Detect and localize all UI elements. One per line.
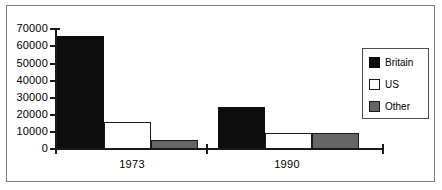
y-axis-label-text: 50000: [6, 58, 48, 69]
y-axis-label-40000: 40000: [7, 75, 48, 86]
x-axis-tick: [206, 144, 208, 154]
y-axis-label-70000: 70000: [7, 23, 48, 34]
white-square-swatch-icon: [369, 79, 380, 90]
y-axis-label-60000: 60000: [7, 40, 48, 51]
gray-square-swatch-icon: [369, 101, 380, 112]
legend: Britain US Other: [362, 48, 429, 119]
x-axis-tick: [382, 144, 384, 154]
y-axis-tick: [50, 28, 60, 30]
x-axis-line: [55, 148, 384, 150]
x-axis-label-1990: 1990: [232, 158, 342, 170]
legend-item-us: US: [369, 78, 399, 90]
y-axis-label-text: 70000: [6, 23, 48, 34]
legend-item-other: Other: [369, 100, 410, 112]
y-axis-label-10000: 10000: [7, 126, 48, 137]
x-axis-label-1973: 1973: [77, 158, 187, 170]
legend-label-us: US: [385, 79, 399, 90]
legend-label-other: Other: [385, 101, 410, 112]
y-axis-label-text: 30000: [6, 92, 48, 103]
legend-item-britain: Britain: [369, 56, 413, 68]
bar-1973-britain: [57, 36, 104, 150]
plot-area: 70000 60000 50000 40000 30000 20000 1000…: [7, 6, 436, 183]
bar-1990-britain: [218, 107, 265, 150]
y-axis-label-0: 0: [7, 143, 48, 154]
y-axis-label-text: 60000: [6, 40, 48, 51]
chart-frame: 70000 60000 50000 40000 30000 20000 1000…: [6, 5, 435, 182]
x-axis-tick: [55, 144, 57, 154]
y-axis-label-text: 10000: [6, 126, 48, 137]
black-square-swatch-icon: [369, 57, 380, 68]
y-axis-label-20000: 20000: [7, 109, 48, 120]
y-axis-label-text: 40000: [6, 75, 48, 86]
y-axis-label-text: 0: [6, 143, 48, 154]
legend-label-britain: Britain: [385, 57, 413, 68]
bar-1973-us: [104, 122, 151, 150]
y-axis-label-50000: 50000: [7, 58, 48, 69]
y-axis-label-text: 20000: [6, 109, 48, 120]
y-axis-label-30000: 30000: [7, 92, 48, 103]
